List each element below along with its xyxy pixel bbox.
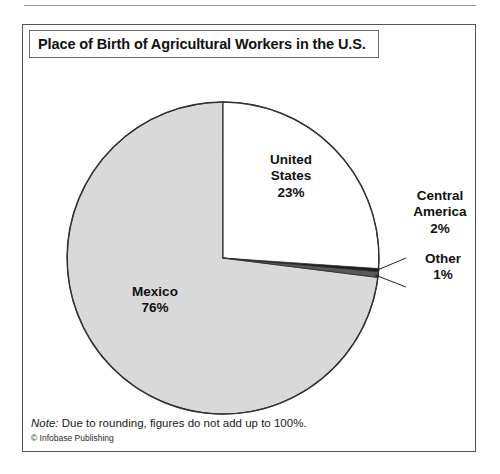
footnote-block: Note: Due to rounding, figures do not ad…: [31, 417, 461, 443]
slice-value-mexico: 76%: [109, 300, 201, 316]
pie-chart-svg: [23, 59, 475, 419]
slice-value-united-states: 23%: [248, 185, 334, 201]
slice-label-other: Other 1%: [409, 251, 477, 284]
figure-root: Place of Birth of Agricultural Workers i…: [0, 0, 500, 474]
slice-label-united-states: United States 23%: [248, 152, 334, 201]
copyright-line: © Infobase Publishing: [31, 433, 461, 443]
top-rule: [24, 5, 476, 6]
figure-frame: Place of Birth of Agricultural Workers i…: [22, 24, 476, 452]
slice-label-central-america-line1: Central: [417, 188, 464, 203]
pie-chart-area: United States 23% Mexico 76% Central Ame…: [23, 59, 475, 419]
page-title: Place of Birth of Agricultural Workers i…: [38, 36, 366, 52]
slice-label-mexico-line1: Mexico: [132, 284, 178, 299]
chart-note-text: Due to rounding, figures do not add up t…: [59, 417, 307, 429]
slice-value-central-america: 2%: [401, 221, 479, 237]
slice-value-other: 1%: [409, 267, 477, 283]
slice-label-central-america-line2: America: [413, 204, 466, 219]
slice-label-united-states-line1: United: [270, 152, 312, 167]
slice-label-mexico: Mexico 76%: [109, 284, 201, 317]
slice-label-central-america: Central America 2%: [401, 188, 479, 237]
chart-note: Note: Due to rounding, figures do not ad…: [31, 417, 461, 429]
slice-label-other-line1: Other: [425, 251, 461, 266]
chart-title-box: Place of Birth of Agricultural Workers i…: [29, 30, 379, 58]
slice-label-united-states-line2: States: [271, 168, 312, 183]
chart-note-label: Note:: [31, 417, 59, 429]
